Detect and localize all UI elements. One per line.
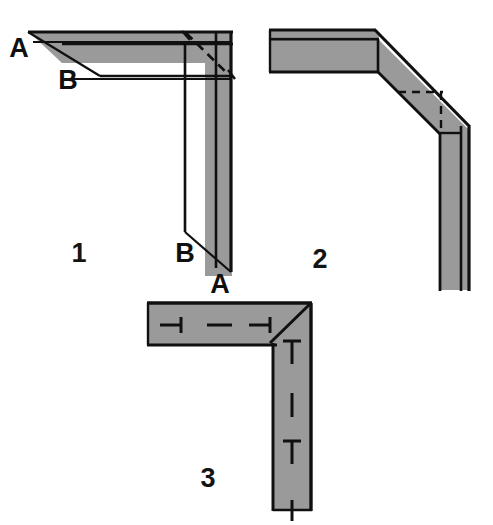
panel-2-group: 2 (269, 30, 470, 291)
panel-1-label-b-bottom: B (175, 238, 195, 268)
panel-3-figure-number: 3 (200, 463, 215, 493)
panel-3-group: 3 (147, 303, 312, 521)
panel-1-group: A B B A 1 (9, 31, 235, 299)
diagram-page: A B B A 1 (0, 0, 493, 525)
panel-1-label-a-bottom: A (210, 269, 230, 299)
panel-1-label-b-top: B (58, 65, 78, 95)
panel-2-figure-number: 2 (312, 244, 327, 274)
panel-2-arm-top-band-fill (270, 31, 380, 37)
panel-3-body-fill (148, 303, 312, 510)
corner-joint-diagram: A B B A 1 (0, 0, 493, 525)
panel-1-figure-number: 1 (71, 238, 86, 268)
panel-1-label-a-top: A (9, 33, 29, 63)
